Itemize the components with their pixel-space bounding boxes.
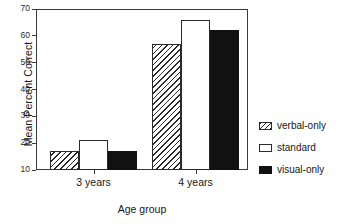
bar-visual-only-4-years — [210, 30, 239, 170]
x-axis-tick — [196, 170, 197, 174]
bars-layer — [36, 9, 248, 170]
y-tick-label: 30 — [21, 110, 30, 120]
x-axis-title: Age group — [36, 203, 248, 215]
legend-item-visual-only: visual-only — [259, 165, 339, 177]
y-tick-label: 10 — [21, 164, 30, 174]
y-tick-label: 20 — [21, 137, 30, 147]
bar-verbal-only-3-years — [50, 151, 79, 170]
bar-visual-only-3-years — [108, 151, 137, 170]
bar-chart-figure: Mean Percent Correct 10203040506070 3 ye… — [0, 0, 339, 224]
legend-label-standard: standard — [277, 142, 316, 153]
legend-swatch-visual-only — [259, 166, 272, 174]
y-tick-label: 50 — [21, 57, 30, 67]
legend-swatch-verbal-only — [259, 122, 272, 130]
bar-verbal-only-4-years — [152, 44, 181, 170]
y-tick-label: 40 — [21, 84, 30, 94]
y-tick-label: 60 — [21, 30, 30, 40]
y-tick-label: 70 — [21, 3, 30, 13]
legend-label-visual-only: visual-only — [277, 164, 324, 175]
legend-swatch-standard — [259, 144, 272, 152]
x-group-label-3-years: 3 years — [54, 176, 134, 188]
legend-item-standard: standard — [259, 143, 339, 155]
x-group-label-4-years: 4 years — [156, 176, 236, 188]
legend-item-verbal-only: verbal-only — [259, 121, 339, 133]
bar-standard-4-years — [181, 20, 210, 170]
bar-standard-3-years — [79, 140, 108, 170]
legend-label-verbal-only: verbal-only — [277, 120, 326, 131]
x-axis-tick — [94, 170, 95, 174]
